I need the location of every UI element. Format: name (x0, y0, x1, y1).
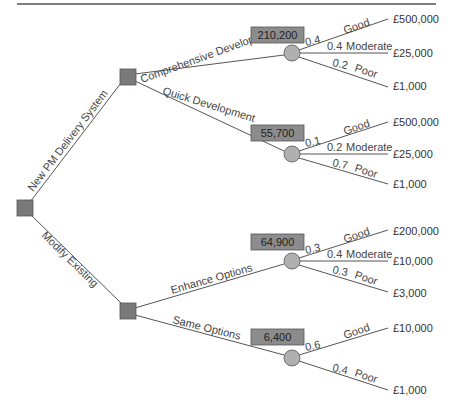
outcome-prob: 0.4 (327, 40, 342, 52)
decision-node-new-system (120, 69, 136, 85)
option-label: Quick Development (161, 84, 256, 124)
outcome-prob: 0.1 (304, 134, 321, 149)
ev-box-comprehensive: 210,200 (251, 27, 304, 43)
root-branch-new-pm: New PM Delivery System (25, 83, 121, 202)
chance-node-same (284, 350, 300, 366)
outcome-value: £1,000 (393, 80, 427, 92)
branch-label-new-pm-delivery-system: New PM Delivery System (25, 87, 110, 193)
expected-value: 210,200 (258, 29, 298, 41)
option-enhance-options: Enhance Options (135, 261, 284, 308)
outcome-name: Poor (353, 366, 379, 385)
expected-value: 6,400 (264, 331, 292, 343)
chance-outcomes-same: 0.6 Good 0.4 Poor £10,000 £1,000 (299, 321, 433, 396)
chance-outcomes-enhance: 0.3 Good 0.4 Moderate 0.3 Poor £200,000 … (299, 225, 439, 299)
outcome-value: £25,000 (393, 148, 433, 160)
chance-node-quick (284, 146, 300, 162)
outcome-prob: 0.4 (327, 248, 342, 260)
decision-node-modify-existing (120, 303, 136, 319)
chance-node-comprehensive (284, 45, 300, 61)
chance-outcomes-comprehensive: 0.4 Good 0.4 Moderate 0.2 Poor £500,000 … (299, 13, 439, 92)
outcome-name: Moderate (346, 40, 392, 52)
expected-value: 64,900 (261, 236, 295, 248)
outcome-value: £1,000 (393, 178, 427, 190)
outcome-name: Moderate (346, 141, 392, 153)
outcome-prob: 0.3 (304, 241, 321, 256)
ev-box-enhance: 64,900 (251, 234, 304, 250)
outcome-value: £500,000 (393, 13, 439, 25)
root-branch-modify-existing: Modify Existing (31, 215, 122, 304)
outcome-value: £500,000 (393, 116, 439, 128)
ev-box-same: 6,400 (251, 329, 304, 345)
option-label: Enhance Options (169, 261, 254, 296)
chance-outcomes-quick: 0.1 Good 0.2 Moderate 0.7 Poor £500,000 … (299, 116, 439, 190)
outcome-name: Poor (353, 61, 379, 80)
outcome-name: Good (342, 225, 371, 245)
outcome-value: £10,000 (393, 322, 433, 334)
outcome-prob: 0.4 (304, 33, 321, 48)
outcome-name: Poor (353, 268, 379, 287)
outcome-prob: 0.4 (332, 361, 349, 376)
outcome-name: Good (342, 16, 371, 36)
outcome-name: Good (342, 117, 371, 137)
chance-node-enhance (284, 253, 300, 269)
root-decision-node (17, 200, 33, 216)
outcome-value: £200,000 (393, 225, 439, 237)
outcome-value: £25,000 (393, 47, 433, 59)
outcome-prob: 0.7 (332, 156, 349, 171)
outcome-value: £10,000 (393, 255, 433, 267)
outcome-value: £3,000 (393, 287, 427, 299)
outcome-value: £1,000 (393, 384, 427, 396)
expected-value: 55,700 (261, 127, 295, 139)
outcome-prob: 0.2 (327, 141, 342, 153)
ev-box-quick: 55,700 (251, 125, 304, 141)
outcome-prob: 0.6 (304, 338, 321, 353)
decision-tree-diagram: New PM Delivery System Modify Existing C… (0, 0, 451, 412)
branch-label-modify-existing: Modify Existing (40, 229, 101, 289)
outcome-name: Moderate (346, 248, 392, 260)
